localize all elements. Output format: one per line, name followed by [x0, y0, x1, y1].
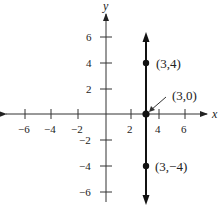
y-tick-label: −4 [79, 160, 91, 172]
x-tick-label: 2 [127, 123, 133, 135]
line-top-arrow-icon [143, 32, 150, 42]
y-tick-label: −2 [79, 134, 91, 146]
point-3-4 [143, 60, 149, 66]
y-axis-label: y [102, 0, 109, 13]
x-tick-label: 4 [155, 123, 161, 135]
x-tick-label: −6 [18, 123, 30, 135]
coordinate-plane: x y −6 −4 −2 2 4 6 6 4 2 −2 −4 −6 [0, 0, 222, 207]
x-tick-label: −4 [44, 123, 56, 135]
y-tick-label: 6 [86, 31, 92, 43]
point-3-0 [142, 110, 149, 117]
y-tick-label: 2 [86, 83, 92, 95]
x-axis-label: x [211, 107, 218, 121]
line-bottom-arrow-icon [143, 195, 150, 205]
x-tick-label: 6 [181, 123, 187, 135]
x-tick-labels: −6 −4 −2 2 4 6 [18, 123, 187, 135]
annotation-arrow [151, 97, 166, 110]
point-label-3-0: (3,0) [172, 88, 197, 103]
y-tick-label: −6 [79, 186, 91, 198]
point-label-3-4: (3,4) [156, 56, 181, 71]
y-tick-label: 4 [86, 57, 92, 69]
point-3-neg4 [143, 163, 149, 169]
point-label-3-neg4: (3,−4) [155, 159, 187, 174]
